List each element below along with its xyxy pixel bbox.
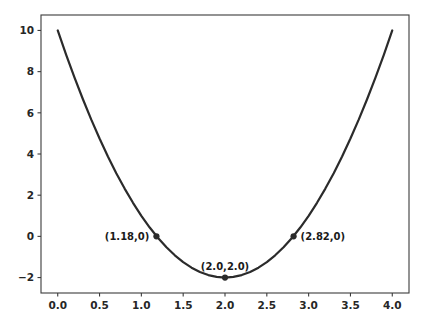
x-tick-label: 2.5	[258, 299, 277, 311]
x-tick-label: 1.0	[132, 299, 151, 311]
y-tick-label: 2	[27, 189, 34, 201]
x-tick-label: 3.0	[299, 299, 318, 311]
y-tick-label: 10	[19, 24, 34, 36]
y-tick-label: −2	[18, 271, 34, 283]
y-tick-label: 4	[27, 148, 34, 160]
plot-canvas: 0.00.51.01.52.02.53.03.54.0 1086420−2 (1…	[0, 0, 431, 326]
marker-right-root	[290, 233, 296, 239]
axes-background	[41, 15, 409, 293]
x-tick-label: 0.0	[48, 299, 67, 311]
label-left-root: (1.18,0)	[105, 231, 150, 242]
y-tick-label: 0	[27, 230, 34, 242]
y-tick-label: 6	[27, 107, 34, 119]
x-tick-label: 3.5	[341, 299, 360, 311]
marker-left-root	[153, 233, 159, 239]
x-tick-label: 1.5	[174, 299, 193, 311]
x-tick-label: 0.5	[90, 299, 109, 311]
label-vertex: (2.0,2.0)	[201, 261, 249, 272]
y-tick-label: 8	[27, 65, 34, 77]
label-right-root: (2.82,0)	[301, 231, 346, 242]
matplotlib-figure: 0.00.51.01.52.02.53.03.54.0 1086420−2 (1…	[0, 0, 431, 326]
x-tick-label: 2.0	[216, 299, 235, 311]
marker-vertex	[222, 274, 228, 280]
x-tick-label: 4.0	[383, 299, 402, 311]
